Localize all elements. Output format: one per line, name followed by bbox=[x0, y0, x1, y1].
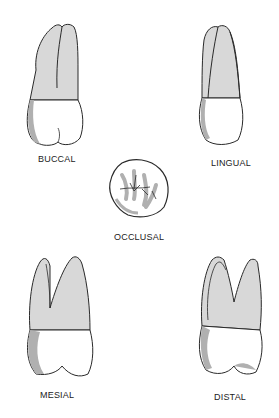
buccal-tooth-illustration bbox=[0, 0, 140, 170]
mesial-view: MESIAL bbox=[0, 250, 140, 418]
label-mesial: MESIAL bbox=[40, 390, 74, 400]
distal-view: DISTAL bbox=[140, 250, 279, 418]
label-lingual: LINGUAL bbox=[211, 158, 251, 168]
lingual-view: LINGUAL bbox=[140, 0, 279, 170]
occlusal-view: OCCLUSAL bbox=[100, 155, 180, 245]
mesial-tooth-illustration bbox=[0, 250, 140, 400]
label-occlusal: OCCLUSAL bbox=[114, 232, 164, 242]
buccal-view: BUCCAL bbox=[0, 0, 140, 170]
lingual-tooth-illustration bbox=[140, 0, 279, 170]
label-distal: DISTAL bbox=[214, 392, 246, 402]
distal-tooth-illustration bbox=[140, 250, 279, 400]
label-buccal: BUCCAL bbox=[38, 154, 76, 164]
occlusal-tooth-illustration bbox=[100, 155, 180, 235]
